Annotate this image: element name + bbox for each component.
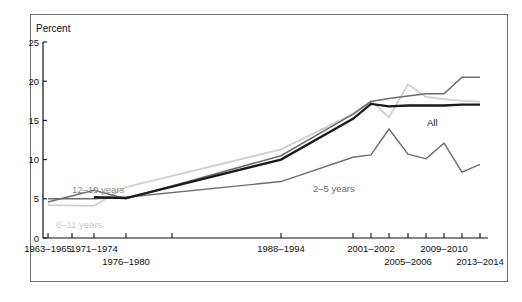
x-axis-tick-label: 2009–2010 — [420, 243, 468, 254]
y-axis-tick-label: 25 — [28, 37, 39, 48]
x-axis-tick-label: 1988–1994 — [257, 243, 305, 254]
x-axis-tick-label: 2013–2014 — [456, 256, 504, 267]
x-axis-tick-label: 1963–1965 — [24, 243, 72, 254]
x-axis-tick-label: 2001–2002 — [347, 243, 395, 254]
x-axis-tick-label: 1976–1980 — [102, 256, 150, 267]
y-axis-tick-label: 20 — [28, 76, 39, 87]
x-axis-tick-label: 1971–1974 — [70, 243, 118, 254]
y-axis-tick-label: 0 — [34, 233, 39, 244]
y-axis-tick-label: 10 — [28, 154, 39, 165]
series-label-6-11-years: 6–11 years — [56, 219, 103, 230]
series-label-12-19-years: 12–19 years — [72, 184, 125, 195]
x-axis-tick-label: 2005–2006 — [384, 256, 432, 267]
y-axis-unit-label: Percent — [36, 23, 71, 34]
line-chart-canvas: Percent05101520251963–19651971–19741976–… — [0, 0, 522, 302]
series-label-all: All — [427, 117, 438, 128]
y-axis-tick-label: 15 — [28, 115, 39, 126]
chart-figure: Percent05101520251963–19651971–19741976–… — [0, 0, 522, 302]
y-axis-tick-label: 5 — [34, 193, 39, 204]
series-line-all — [94, 104, 480, 198]
series-label-2-5-years: 2–5 years — [313, 183, 355, 194]
